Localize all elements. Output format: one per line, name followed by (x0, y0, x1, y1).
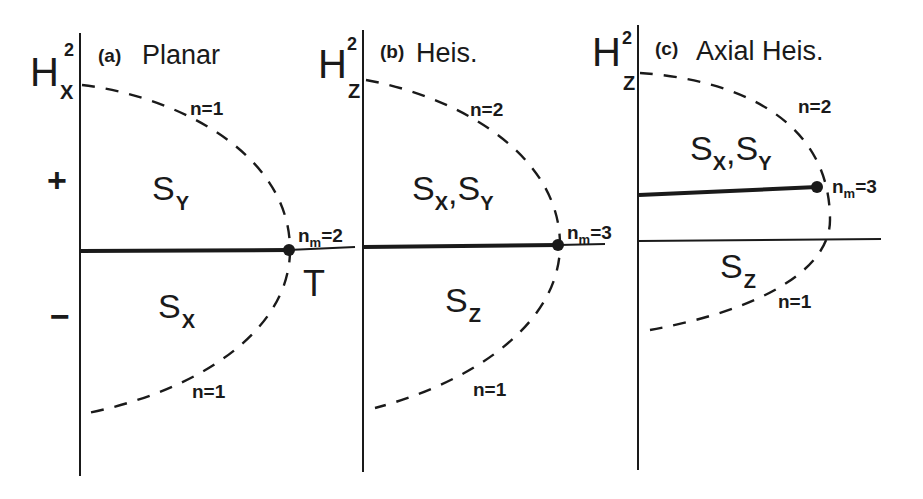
panel-b-axis-label: H (318, 42, 347, 86)
panel-a-region-sy: SY (152, 169, 190, 214)
panel-b-region-sz: SZ (445, 281, 481, 326)
panel-a-phase-boundary-line (81, 250, 288, 251)
panel-c-title: Axial Heis. (696, 36, 824, 66)
panel-a-multicritical-point (283, 244, 295, 256)
panel-a-upper-curve-label: n=1 (190, 98, 224, 119)
panel-a-plus-sign: + (47, 161, 67, 199)
panel-a-planar: H 2 X (a) Planar + − SY SX n=1 n=1 nm=2 … (30, 33, 355, 476)
panel-c-lower-curve-label: n=1 (778, 291, 812, 312)
panel-b-nm-label: nm=3 (567, 222, 612, 247)
panel-c-axial-heisenberg: H 2 Z (c) Axial Heis. SX,SY SZ n=2 n=1 n… (592, 25, 881, 470)
panel-a-axis-sub: X (60, 81, 74, 103)
panel-c-region-sz: SZ (720, 247, 756, 292)
panel-a-minus-sign: − (50, 297, 70, 335)
panel-c-axis-sub: Z (623, 72, 635, 94)
panel-a-region-sx: SX (158, 287, 196, 332)
panel-b-upper-curve-label: n=2 (470, 99, 503, 120)
panel-a-title: Planar (142, 40, 220, 70)
panel-b-lower-curve-label: n=1 (473, 379, 507, 400)
panel-b-axis-sub: Z (348, 80, 360, 102)
panel-b-heisenberg: H 2 Z (b) Heis. SX,SY SZ n=2 n=1 nm=3 (318, 30, 612, 472)
panel-a-axis-extension (288, 247, 355, 250)
panel-b-axis-sup: 2 (347, 34, 357, 54)
panel-a-nm-label: nm=2 (298, 225, 343, 250)
panel-a-lower-curve-label: n=1 (192, 381, 226, 402)
panel-b-title-tag: (b) (380, 41, 404, 62)
panel-c-title-tag: (c) (655, 38, 678, 59)
panel-a-title-tag: (a) (98, 45, 121, 66)
panel-b-phase-boundary-line (364, 245, 558, 247)
panel-c-phase-boundary-line (639, 187, 817, 195)
panel-c-upper-curve-label: n=2 (798, 96, 831, 117)
panel-c-multicritical-point (811, 181, 823, 193)
panel-c-nm-label: nm=3 (832, 176, 877, 201)
phase-diagram-figure: H 2 X (a) Planar + − SY SX n=1 n=1 nm=2 … (0, 0, 923, 499)
panel-c-axis-label: H (592, 30, 621, 74)
panel-b-multicritical-point (552, 239, 564, 251)
panel-c-axis-sup: 2 (622, 28, 632, 48)
panel-c-horizontal-axis (639, 239, 881, 241)
panel-a-tricritical-label: T (303, 263, 325, 304)
panel-b-title: Heis. (416, 38, 478, 68)
panel-a-axis-label: H (30, 50, 59, 94)
panel-b-region-sxsy: SX,SY (412, 169, 494, 214)
panel-a-axis-sup: 2 (64, 40, 74, 60)
panel-c-region-sxsy: SX,SY (690, 129, 772, 174)
